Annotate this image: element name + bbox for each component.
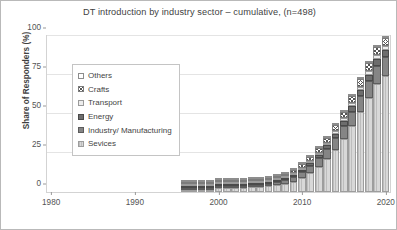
bar-segment [365, 81, 373, 99]
bar-column [306, 36, 314, 192]
bar-column [365, 36, 373, 192]
bar-column [381, 36, 389, 192]
bar-segment [306, 166, 314, 173]
bar-segment [357, 79, 365, 86]
legend-item: Sevices [78, 137, 172, 151]
bar-segment [382, 50, 390, 57]
chart-title: DT introduction by industry sector – cum… [1, 7, 397, 17]
bar-segment [181, 190, 189, 192]
legend-swatch-icon [78, 73, 84, 79]
bar-column [264, 36, 272, 192]
bar-column [55, 36, 63, 192]
legend-label: Energy [88, 112, 113, 121]
legend-item: Energy [78, 110, 172, 124]
bar-segment [332, 138, 340, 150]
legend-item: Others [78, 69, 172, 83]
bar-segment [357, 96, 365, 113]
bar-segment [223, 188, 231, 192]
y-tick-label: 0 [36, 179, 47, 188]
bar-segment [340, 126, 348, 139]
bar-segment [332, 150, 340, 192]
bar-column [248, 36, 256, 192]
bar-column [231, 36, 239, 192]
bar-segment [365, 98, 373, 192]
bar-segment [290, 182, 298, 192]
bar-column [315, 36, 323, 192]
bar-segment [315, 158, 323, 167]
bar-segment [357, 112, 365, 192]
x-tick-label: 1990 [126, 192, 144, 207]
bar-column [47, 36, 55, 192]
legend-label: Industry/ Manufacturing [88, 126, 172, 135]
bar-column [356, 36, 364, 192]
legend-item: Industry/ Manufacturing [78, 123, 172, 137]
bar-column [281, 36, 289, 192]
y-tick-label: 50 [32, 101, 47, 110]
legend-label: Others [88, 71, 112, 80]
bar-segment [189, 190, 197, 192]
bar-segment [206, 190, 214, 192]
bar-segment [348, 96, 356, 103]
bar-segment [348, 112, 356, 127]
bar-segment [348, 126, 356, 192]
chart-legend: OthersCraftsTransportEnergyIndustry/ Man… [72, 64, 180, 156]
bar-segment [340, 139, 348, 192]
bar-column [289, 36, 297, 192]
bar-column [373, 36, 381, 192]
bar-segment [281, 184, 289, 192]
legend-swatch-icon [78, 127, 84, 133]
legend-swatch-icon [78, 86, 84, 92]
bar-segment [306, 173, 314, 192]
bar-segment [248, 187, 256, 192]
bar-column [223, 36, 231, 192]
bar-segment [231, 188, 239, 192]
bar-segment [215, 188, 223, 192]
bar-segment [323, 159, 331, 192]
bar-segment [373, 66, 381, 85]
bar-column [181, 36, 189, 192]
legend-swatch-icon [78, 100, 84, 106]
bar-segment [382, 76, 390, 192]
bar-column [206, 36, 214, 192]
x-tick-label: 2010 [293, 192, 311, 207]
bar-segment [373, 84, 381, 192]
bar-column [64, 36, 72, 192]
bar-segment [240, 188, 248, 192]
bar-column [197, 36, 205, 192]
bar-segment [198, 190, 206, 192]
y-tick-label: 75 [32, 62, 47, 71]
bar-segment [265, 186, 273, 192]
bar-column [340, 36, 348, 192]
bar-column [348, 36, 356, 192]
legend-label: Sevices [88, 139, 116, 148]
y-tick-label: 25 [32, 140, 47, 149]
x-tick-label: 2020 [377, 192, 395, 207]
bar-segment [373, 47, 381, 55]
bar-segment [273, 185, 281, 192]
bar-column [331, 36, 339, 192]
bar-segment [298, 178, 306, 192]
x-tick-label: 1980 [42, 192, 60, 207]
y-tick-label: 100 [27, 23, 47, 32]
legend-item: Transport [78, 96, 172, 110]
x-tick-label: 2000 [209, 192, 227, 207]
bar-column [298, 36, 306, 192]
bar-segment [323, 149, 331, 159]
bar-column [214, 36, 222, 192]
bar-column [273, 36, 281, 192]
bar-segment [365, 63, 373, 71]
bar-segment [256, 187, 264, 192]
bar-segment [315, 167, 323, 192]
bar-segment [382, 38, 390, 46]
bar-column [323, 36, 331, 192]
bar-column [256, 36, 264, 192]
legend-swatch-icon [78, 141, 84, 147]
bar-column [239, 36, 247, 192]
bar-column [189, 36, 197, 192]
legend-label: Transport [88, 98, 122, 107]
legend-label: Crafts [88, 85, 109, 94]
chart-figure: DT introduction by industry sector – cum… [0, 0, 397, 230]
legend-swatch-icon [78, 114, 84, 120]
legend-item: Crafts [78, 83, 172, 97]
bar-segment [382, 57, 390, 76]
